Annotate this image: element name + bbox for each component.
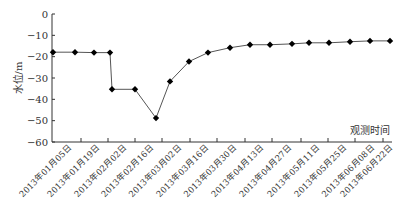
y-tick-label: −30	[27, 73, 48, 84]
diamond-marker	[347, 39, 353, 45]
y-tick-label: −10	[27, 30, 48, 41]
water-level-chart: 0−10−20−30−40−50−60 水位/m 观测时间 2013年01月05…	[0, 0, 404, 217]
diamond-marker	[227, 45, 233, 51]
y-axis-label: 水位/m	[12, 61, 24, 94]
y-tick-label: −40	[27, 94, 48, 105]
data-markers	[50, 38, 393, 122]
diamond-marker	[247, 42, 253, 48]
x-axis-label: 观测时间	[350, 124, 390, 136]
diamond-marker	[107, 49, 113, 55]
y-tick-label: −50	[27, 115, 48, 126]
water-level-line	[53, 41, 390, 118]
y-tick-labels: 0−10−20−30−40−50−60	[27, 9, 48, 148]
diamond-marker	[306, 40, 312, 46]
diamond-marker	[109, 86, 115, 92]
x-tick-labels: 2013年01月05日2013年01月19日2013年02月02日2013年02…	[17, 142, 395, 199]
diamond-marker	[72, 49, 78, 55]
axes	[52, 14, 392, 142]
diamond-marker	[387, 38, 393, 44]
diamond-marker	[326, 40, 332, 46]
diamond-marker	[367, 38, 373, 44]
diamond-marker	[289, 41, 295, 47]
diamond-marker	[205, 49, 211, 55]
y-tick-label: −60	[27, 137, 48, 148]
diamond-marker	[267, 42, 273, 48]
y-tick-label: 0	[42, 9, 48, 20]
diamond-marker	[50, 49, 56, 55]
y-tick-label: −20	[27, 51, 48, 62]
diamond-marker	[91, 49, 97, 55]
